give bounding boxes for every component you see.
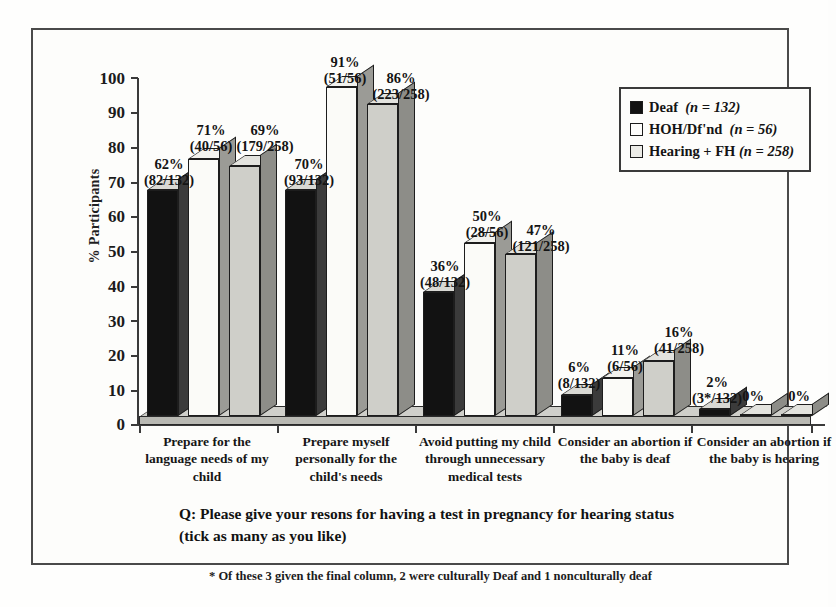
legend-series-name: Deaf <box>649 99 678 115</box>
value-frac: (48/132) <box>405 274 485 290</box>
value-label-deaf-c2: 36% (48/132) <box>405 258 485 290</box>
x-tick-mark-2 <box>415 425 417 433</box>
bar-front-face <box>326 87 357 416</box>
legend-item-deaf[interactable]: Deaf (n = 132) <box>630 96 801 118</box>
legend-swatch-deaf-icon <box>630 101 643 114</box>
cat-line-2: language needs of my <box>137 450 277 467</box>
value-pct: 86% <box>353 70 449 86</box>
caption-line-2: (tick as many as you like) <box>179 525 739 547</box>
bar-front-face <box>561 395 592 416</box>
y-tick-label-20: 20 <box>83 347 125 364</box>
value-pct: 16% <box>631 324 727 340</box>
value-label-deaf-c0: 62% (82/132) <box>129 156 209 188</box>
value-pct: 36% <box>405 258 485 274</box>
x-tick-mark-3 <box>553 425 555 433</box>
chart-legend: Deaf (n = 132) HOH/Df'nd (n = 56) Hearin… <box>619 87 811 172</box>
value-pct: 70% <box>269 156 349 172</box>
value-label-hearing-c4: 0% <box>773 388 825 404</box>
value-pct: 62% <box>129 156 209 172</box>
cat-line-1: Consider an abortion if <box>551 433 699 450</box>
legend-swatch-hoh-icon <box>630 123 643 136</box>
cat-line-3: child's needs <box>279 468 413 485</box>
bar-front-face <box>699 409 730 416</box>
bar-hoh-c4[interactable] <box>740 415 771 416</box>
value-label-hearing-c2: 47% (121/258) <box>493 222 589 254</box>
bar-deaf-c0[interactable] <box>147 190 178 416</box>
bar-deaf-c2[interactable] <box>423 292 454 416</box>
y-tick-mark-10 <box>131 390 138 392</box>
y-tick-mark-20 <box>131 355 138 357</box>
bar-deaf-c4[interactable] <box>699 409 730 416</box>
chart-floor-front <box>139 416 811 425</box>
cat-line-1: Prepare for the <box>137 433 277 450</box>
bar-deaf-c1[interactable] <box>285 190 316 416</box>
legend-item-hearing[interactable]: Hearing + FH (n = 258) <box>630 140 801 162</box>
value-pct: 91% <box>305 54 385 70</box>
cat-line-3: child <box>137 468 277 485</box>
legend-series-n: (n = 132) <box>685 99 740 115</box>
x-category-label-3: Consider an abortion if the baby is deaf <box>551 433 699 468</box>
legend-swatch-hearing-icon <box>630 145 643 158</box>
bar-front-face <box>188 159 219 416</box>
x-tick-mark-0 <box>139 425 141 433</box>
y-tick-label-60: 60 <box>83 208 125 225</box>
y-tick-mark-0 <box>131 424 138 426</box>
bar-front-face <box>740 414 771 416</box>
y-tick-label-10: 10 <box>83 382 125 399</box>
x-tick-mark-4 <box>691 425 693 433</box>
y-tick-label-80: 80 <box>83 139 125 156</box>
x-category-label-1: Prepare myself personally for the child'… <box>279 433 413 485</box>
legend-label-hoh: HOH/Df'nd (n = 56) <box>649 121 777 138</box>
x-tick-mark-5 <box>811 425 813 433</box>
cat-line-1: Consider an abortion if <box>689 433 836 450</box>
bar-front-face <box>147 190 178 416</box>
bar-front-face <box>423 292 454 416</box>
y-tick-mark-100 <box>131 77 138 79</box>
bar-front-face <box>505 254 536 416</box>
y-tick-label-40: 40 <box>83 278 125 295</box>
cat-line-2: through unnecessary <box>413 450 557 467</box>
y-tick-mark-60 <box>131 216 138 218</box>
figure-footnote: * Of these 3 given the final column, 2 w… <box>209 568 749 584</box>
y-tick-label-100: 100 <box>83 70 125 87</box>
legend-series-name: HOH/Df'nd <box>649 121 722 137</box>
bar-deaf-c3[interactable] <box>561 395 592 416</box>
cat-line-2: personally for the <box>279 450 413 467</box>
value-frac: (6/56) <box>585 358 665 374</box>
legend-item-hoh[interactable]: HOH/Df'nd (n = 56) <box>630 118 801 140</box>
x-category-label-2: Avoid putting my child through unnecessa… <box>413 433 557 485</box>
value-label-hearing-c0: 69% (179/258) <box>217 122 313 154</box>
x-category-label-0: Prepare for the language needs of my chi… <box>137 433 277 485</box>
legend-series-n: (n = 56) <box>730 121 778 137</box>
legend-series-n: (n = 258) <box>739 143 794 159</box>
y-tick-mark-90 <box>131 112 138 114</box>
value-frac: (82/132) <box>129 172 209 188</box>
y-tick-label-50: 50 <box>83 243 125 260</box>
y-tick-mark-80 <box>131 147 138 149</box>
value-frac: (93/132) <box>269 172 349 188</box>
cat-line-3: medical tests <box>413 468 557 485</box>
cat-line-1: Prepare myself <box>279 433 413 450</box>
bar-hearing-c4[interactable] <box>781 415 812 416</box>
cat-line-2: the baby is deaf <box>551 450 699 467</box>
bar-hoh-c1[interactable] <box>326 87 357 416</box>
bar-hearing-c0[interactable] <box>229 166 260 416</box>
x-tick-mark-1 <box>277 425 279 433</box>
bar-front-face <box>229 166 260 416</box>
value-frac: (8/132) <box>539 375 619 391</box>
y-tick-mark-50 <box>131 251 138 253</box>
value-label-hoh-c4: 0% <box>727 388 779 404</box>
value-frac: (223/258) <box>353 86 449 102</box>
value-label-hearing-c3: 16% (41/258) <box>631 324 727 356</box>
bar-front-face <box>781 414 812 416</box>
bar-hearing-c1[interactable] <box>367 104 398 416</box>
bar-hearing-c2[interactable] <box>505 254 536 416</box>
y-tick-mark-30 <box>131 320 138 322</box>
bar-front-face <box>367 104 398 416</box>
value-pct: 69% <box>217 122 313 138</box>
figure-frame: % Participants 100 90 80 70 60 50 40 30 … <box>31 28 789 565</box>
value-frac: (41/258) <box>631 340 727 356</box>
bar-hoh-c0[interactable] <box>188 159 219 416</box>
caption-line-1: Q: Please give your resons for having a … <box>179 503 739 525</box>
